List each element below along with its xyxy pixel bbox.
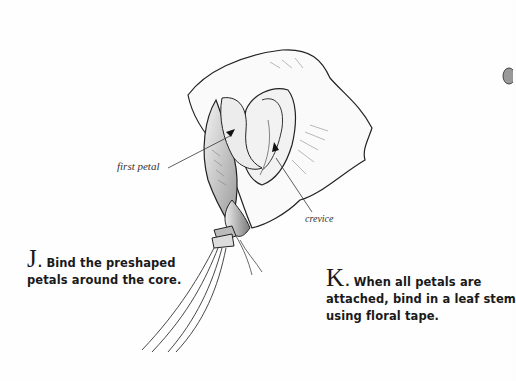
step-text: . Bind the preshaped petals around the c… — [27, 256, 181, 287]
step-k-caption: K. When all petals are attached, bind in… — [326, 269, 516, 325]
step-letter: J — [27, 245, 37, 272]
next-illustration-fragment — [503, 68, 513, 84]
label-crevice: crevice — [305, 213, 334, 224]
step-letter: K — [326, 264, 344, 291]
label-first-petal: first petal — [117, 160, 159, 172]
step-j-caption: J. Bind the preshaped petals around the … — [27, 250, 187, 289]
step-text: . When all petals are attached, bind in … — [326, 275, 516, 323]
